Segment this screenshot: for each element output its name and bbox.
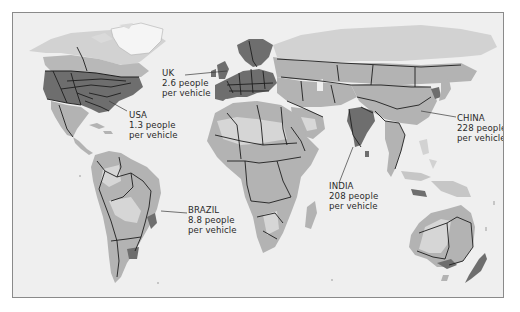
india-unit-label: per vehicle: [329, 201, 378, 211]
world-map: [13, 13, 504, 298]
oceania: [409, 205, 487, 283]
callout-china: CHINA 228 people per vehicle: [457, 113, 504, 143]
china-value-label: 228 people: [457, 123, 504, 133]
india-value-label: 208 people: [329, 191, 378, 201]
south-america: [91, 151, 161, 283]
india-leader: [339, 147, 353, 183]
asia: [273, 25, 497, 197]
brazil-unit-label: per vehicle: [188, 225, 237, 235]
uk-unit-label: per vehicle: [162, 88, 211, 98]
usa-unit-label: per vehicle: [129, 130, 178, 140]
brazil-value-label: 8.8 people: [188, 215, 237, 225]
brazil-leader: [161, 211, 187, 213]
europe: [211, 39, 277, 101]
china-country-label: CHINA: [457, 113, 504, 123]
uk-country-label: UK: [162, 68, 211, 78]
usa-value-label: 1.3 people: [129, 120, 178, 130]
callout-brazil: BRAZIL 8.8 people per vehicle: [188, 205, 237, 235]
uk-value-label: 2.6 people: [162, 78, 211, 88]
callout-usa: USA 1.3 people per vehicle: [129, 110, 178, 140]
callout-uk: UK 2.6 people per vehicle: [162, 68, 211, 98]
india-country-label: INDIA: [329, 181, 378, 191]
usa-country-label: USA: [129, 110, 178, 120]
callout-india: INDIA 208 people per vehicle: [329, 181, 378, 211]
china-unit-label: per vehicle: [457, 133, 504, 143]
world-map-frame: USA 1.3 people per vehicle UK 2.6 people…: [12, 12, 504, 298]
brazil-country-label: BRAZIL: [188, 205, 237, 215]
